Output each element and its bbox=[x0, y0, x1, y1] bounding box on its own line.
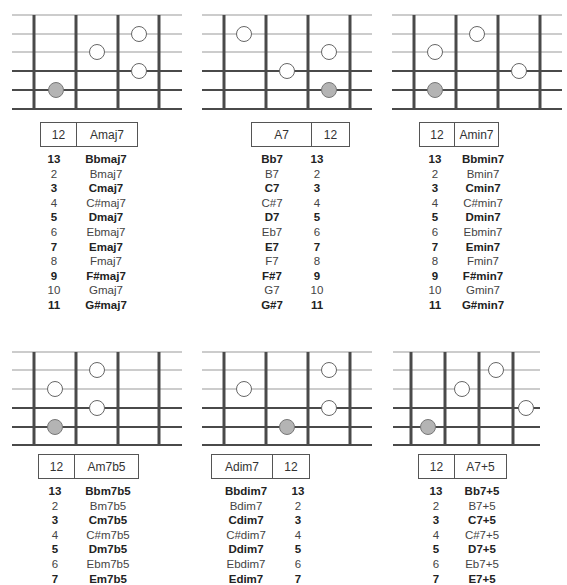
fret-number: 6 bbox=[420, 225, 450, 240]
transpose-list-adim7: Bbdim713Bdim72Cdim73C#dim74Ddim75Ebdim76… bbox=[214, 484, 318, 585]
list-item: 5Dmaj7 bbox=[37, 210, 141, 225]
chord-label-a7sharp5: 12 A7+5 bbox=[418, 454, 507, 479]
list-item: 9F#maj7 bbox=[37, 269, 141, 284]
chord-name: Dmaj7 bbox=[71, 210, 141, 225]
chord-name: Ebm7b5 bbox=[73, 557, 143, 572]
chord-name: Gmaj7 bbox=[71, 283, 141, 298]
chord-note-dot-icon bbox=[519, 401, 534, 416]
list-item: Ebdim76 bbox=[214, 557, 318, 572]
fret-number: 10 bbox=[297, 283, 337, 298]
chord-name: Amin7 bbox=[454, 123, 498, 146]
list-item: 5Dmin7 bbox=[420, 210, 516, 225]
chord-label-am7b5: 12 Am7b5 bbox=[38, 454, 139, 479]
list-item: 2Bm7b5 bbox=[37, 499, 143, 514]
list-item: C#dim74 bbox=[214, 528, 318, 543]
list-item: 13Bbmin7 bbox=[420, 152, 516, 167]
fret-number: 9 bbox=[297, 269, 337, 284]
fret-number: 8 bbox=[420, 254, 450, 269]
chord-name: Cmin7 bbox=[450, 181, 516, 196]
transpose-list-amaj7: 13Bbmaj72Bmaj73Cmaj74C#maj75Dmaj76Ebmaj7… bbox=[37, 152, 141, 313]
list-item: Eb76 bbox=[247, 225, 337, 240]
chord-name: Em7b5 bbox=[73, 572, 143, 585]
fret-number: 2 bbox=[37, 167, 71, 182]
fret-number: 3 bbox=[37, 181, 71, 196]
fret-number: 2 bbox=[297, 167, 337, 182]
chord-name: D7 bbox=[247, 210, 297, 225]
chord-name: A7+5 bbox=[454, 455, 506, 478]
list-item: Bbdim713 bbox=[214, 484, 318, 499]
fret-number: 3 bbox=[420, 513, 452, 528]
fret-number: 5 bbox=[420, 542, 452, 557]
chord-name: Cdim7 bbox=[214, 513, 278, 528]
list-item: E77 bbox=[247, 240, 337, 255]
chord-name: Bbmin7 bbox=[450, 152, 516, 167]
list-item: 3Cmaj7 bbox=[37, 181, 141, 196]
fret-number: 13 bbox=[420, 152, 450, 167]
chord-note-dot-icon bbox=[455, 382, 470, 397]
fret-number: 7 bbox=[297, 240, 337, 255]
list-item: 7Em7b5 bbox=[37, 572, 143, 585]
fret-number: 11 bbox=[37, 298, 71, 313]
list-item: 4C#min7 bbox=[420, 196, 516, 211]
fret-number: 5 bbox=[420, 210, 450, 225]
list-item: G#711 bbox=[247, 298, 337, 313]
list-item: 4C#7+5 bbox=[420, 528, 512, 543]
chord-name: G#maj7 bbox=[71, 298, 141, 313]
list-item: 8Fmin7 bbox=[420, 254, 516, 269]
chord-name: E7 bbox=[247, 240, 297, 255]
fret-number: 9 bbox=[420, 269, 450, 284]
list-item: C73 bbox=[247, 181, 337, 196]
fret-number: 7 bbox=[278, 572, 318, 585]
chord-name: Bdim7 bbox=[214, 499, 278, 514]
fret-number: 4 bbox=[37, 196, 71, 211]
fret-number: 2 bbox=[420, 167, 450, 182]
list-item: Bdim72 bbox=[214, 499, 318, 514]
list-item: 2Bmin7 bbox=[420, 167, 516, 182]
list-item: 3C7+5 bbox=[420, 513, 512, 528]
chord-name: Emaj7 bbox=[71, 240, 141, 255]
chord-name: C7 bbox=[247, 181, 297, 196]
list-item: 6Eb7+5 bbox=[420, 557, 512, 572]
fret-number: 13 bbox=[297, 152, 337, 167]
chord-name: F#7 bbox=[247, 269, 297, 284]
fret-number: 8 bbox=[297, 254, 337, 269]
fret-number: 7 bbox=[420, 240, 450, 255]
chord-name: Dmin7 bbox=[450, 210, 516, 225]
list-item: 11G#maj7 bbox=[37, 298, 141, 313]
list-item: 13Bbm7b5 bbox=[37, 484, 143, 499]
chord-name: B7 bbox=[247, 167, 297, 182]
fret-number: 13 bbox=[420, 484, 452, 499]
fret-number: 12 bbox=[419, 455, 454, 478]
fret-number: 2 bbox=[278, 499, 318, 514]
chord-name: C#m7b5 bbox=[73, 528, 143, 543]
fret-number: 6 bbox=[297, 225, 337, 240]
chord-name: F#min7 bbox=[450, 269, 516, 284]
chord-name: C#dim7 bbox=[214, 528, 278, 543]
list-item: 13Bbmaj7 bbox=[37, 152, 141, 167]
chord-name: Bb7 bbox=[247, 152, 297, 167]
fret-number: 12 bbox=[272, 455, 309, 478]
chord-name: Eb7 bbox=[247, 225, 297, 240]
list-item: 3Cmin7 bbox=[420, 181, 516, 196]
fret-number: 7 bbox=[37, 240, 71, 255]
fret-number: 4 bbox=[420, 196, 450, 211]
list-item: F#79 bbox=[247, 269, 337, 284]
fret-number: 8 bbox=[37, 254, 71, 269]
fret-number: 6 bbox=[278, 557, 318, 572]
list-item: 9F#min7 bbox=[420, 269, 516, 284]
list-item: B72 bbox=[247, 167, 337, 182]
chord-name: Fmaj7 bbox=[71, 254, 141, 269]
chord-name: D7+5 bbox=[452, 542, 512, 557]
list-item: D75 bbox=[247, 210, 337, 225]
fret-number: 13 bbox=[37, 152, 71, 167]
list-item: 10Gmin7 bbox=[420, 283, 516, 298]
chord-name: Emin7 bbox=[450, 240, 516, 255]
fret-number: 6 bbox=[420, 557, 452, 572]
chord-label-amin7: 12 Amin7 bbox=[419, 122, 499, 147]
chord-name: C#min7 bbox=[450, 196, 516, 211]
chord-name: B7+5 bbox=[452, 499, 512, 514]
list-item: Bb713 bbox=[247, 152, 337, 167]
list-item: 11G#min7 bbox=[420, 298, 516, 313]
chord-name: Am7b5 bbox=[74, 455, 138, 478]
fret-number: 3 bbox=[297, 181, 337, 196]
